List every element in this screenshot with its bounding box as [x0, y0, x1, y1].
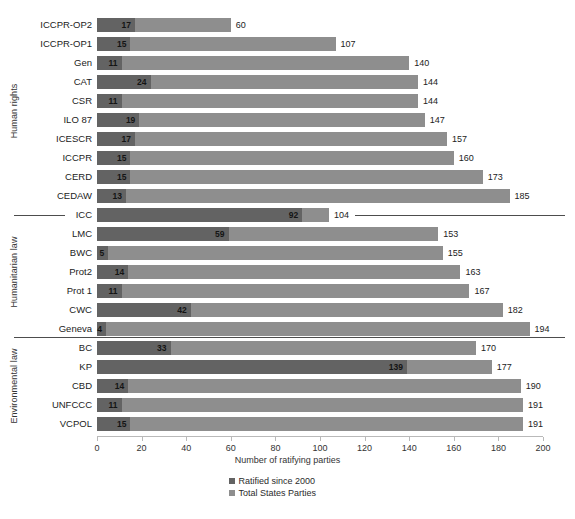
x-axis: 020406080100120140160180200 — [97, 436, 543, 437]
value-label-total-states-parties: 157 — [447, 132, 467, 146]
value-label-ratified-since-2000: 15 — [117, 170, 130, 184]
x-tick — [365, 437, 366, 441]
value-label-ratified-since-2000: 11 — [109, 56, 122, 70]
x-tick — [97, 437, 98, 441]
x-tick-label: 140 — [402, 443, 417, 453]
value-label-total-states-parties: 153 — [438, 227, 458, 241]
value-label-total-states-parties: 147 — [425, 113, 445, 127]
x-tick — [454, 437, 455, 441]
x-tick-label: 120 — [357, 443, 372, 453]
value-label-total-states-parties: 185 — [510, 189, 530, 203]
value-label-ratified-since-2000: 33 — [157, 341, 170, 355]
bar-total-states-parties — [97, 56, 409, 70]
bar-row: LMC59153 — [97, 227, 543, 241]
bar-row: UNFCCC11191 — [97, 398, 543, 412]
value-label-total-states-parties: 191 — [523, 398, 543, 412]
value-label-ratified-since-2000: 59 — [215, 227, 228, 241]
category-label-unfccc: UNFCCC — [52, 398, 92, 412]
category-label-iccpr-op2: ICCPR-OP2 — [40, 18, 92, 32]
x-axis-label: Number of ratifying parties — [0, 455, 575, 465]
bar-row: BC33170 — [97, 341, 543, 355]
value-label-ratified-since-2000: 13 — [113, 189, 126, 203]
bar-row: CERD15173 — [97, 170, 543, 184]
value-label-ratified-since-2000: 11 — [109, 94, 122, 108]
bar-row: ICCPR15160 — [97, 151, 543, 165]
category-label-cedaw: CEDAW — [57, 189, 92, 203]
value-label-total-states-parties: 191 — [523, 417, 543, 431]
value-label-total-states-parties: 144 — [418, 75, 438, 89]
bar-total-states-parties — [97, 417, 523, 431]
bar-total-states-parties — [97, 113, 425, 127]
x-tick-label: 20 — [137, 443, 147, 453]
value-label-total-states-parties: 163 — [460, 265, 480, 279]
bar-row: ICESCR17157 — [97, 132, 543, 146]
bar-total-states-parties — [97, 151, 454, 165]
category-label-csr: CSR — [72, 94, 92, 108]
x-tick-label: 0 — [94, 443, 99, 453]
bar-row: CEDAW13185 — [97, 189, 543, 203]
x-tick-label: 180 — [491, 443, 506, 453]
x-tick-label: 40 — [181, 443, 191, 453]
category-label-vcpol: VCPOL — [60, 417, 92, 431]
x-tick — [543, 437, 544, 441]
plot-area: ICCPR-OP21760ICCPR-OP115107Gen11140CAT24… — [97, 18, 543, 436]
group-label-human-rights: Human rights — [0, 18, 28, 203]
bar-total-states-parties — [97, 132, 447, 146]
legend-label-ratified-since-2000: Ratified since 2000 — [239, 476, 316, 486]
bar-total-states-parties — [97, 37, 336, 51]
group-label-text: Human rights — [9, 83, 19, 138]
value-label-ratified-since-2000: 19 — [126, 113, 139, 127]
category-label-cbd: CBD — [72, 379, 92, 393]
category-label-ilo-87: ILO 87 — [63, 113, 92, 127]
bar-row: ICCPR-OP115107 — [97, 37, 543, 51]
x-tick-label: 60 — [226, 443, 236, 453]
value-label-total-states-parties: 194 — [530, 322, 550, 336]
value-label-total-states-parties: 190 — [521, 379, 541, 393]
value-label-ratified-since-2000: 24 — [137, 75, 150, 89]
x-tick-label: 80 — [270, 443, 280, 453]
x-tick — [231, 437, 232, 441]
value-label-total-states-parties: 173 — [483, 170, 503, 184]
bar-row: KP139177 — [97, 360, 543, 374]
value-label-total-states-parties: 160 — [454, 151, 474, 165]
bar-total-states-parties — [97, 170, 483, 184]
bar-row: ICCPR-OP21760 — [97, 18, 543, 32]
value-label-ratified-since-2000: 14 — [115, 379, 128, 393]
category-label-prot2: Prot2 — [69, 265, 92, 279]
legend-swatch-ratified-since-2000 — [229, 478, 235, 484]
value-label-total-states-parties: 170 — [476, 341, 496, 355]
category-label-gen: Gen — [74, 56, 92, 70]
value-label-total-states-parties: 60 — [231, 18, 246, 32]
bar-ratified-since-2000 — [97, 227, 229, 241]
bar-row: Geneva4194 — [97, 322, 543, 336]
value-label-ratified-since-2000: 42 — [177, 303, 190, 317]
x-tick-label: 100 — [312, 443, 327, 453]
x-tick — [320, 437, 321, 441]
group-label-text: Humanitarian law — [9, 236, 19, 307]
bar-row: CAT24144 — [97, 75, 543, 89]
category-label-geneva: Geneva — [59, 322, 92, 336]
category-label-iccpr-op1: ICCPR-OP1 — [40, 37, 92, 51]
value-label-ratified-since-2000: 5 — [99, 246, 108, 260]
x-tick — [409, 437, 410, 441]
category-label-icc: ICC — [76, 208, 92, 222]
value-label-ratified-since-2000: 14 — [115, 265, 128, 279]
value-label-total-states-parties: 167 — [469, 284, 489, 298]
bar-ratified-since-2000 — [97, 208, 302, 222]
bar-ratified-since-2000 — [97, 360, 407, 374]
value-label-total-states-parties: 104 — [329, 208, 349, 222]
group-label-environmental-law: Environmental law — [0, 341, 28, 431]
category-label-lmc: LMC — [72, 227, 92, 241]
value-label-ratified-since-2000: 11 — [109, 284, 122, 298]
value-label-total-states-parties: 177 — [492, 360, 512, 374]
bar-total-states-parties — [97, 246, 443, 260]
bar-row: CSR11144 — [97, 94, 543, 108]
bar-total-states-parties — [97, 265, 460, 279]
bar-row: ICC92104 — [97, 208, 543, 222]
category-label-cerd: CERD — [65, 170, 92, 184]
value-label-total-states-parties: 182 — [503, 303, 523, 317]
value-label-ratified-since-2000: 92 — [289, 208, 302, 222]
bar-total-states-parties — [97, 189, 510, 203]
x-tick — [498, 437, 499, 441]
x-tick — [142, 437, 143, 441]
